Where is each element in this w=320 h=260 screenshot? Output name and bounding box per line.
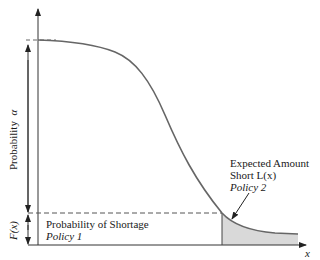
policy-2-label: Policy 2	[230, 181, 266, 193]
alpha-symbol: α	[7, 110, 19, 116]
short-lx-label: Short L(x)	[230, 169, 276, 181]
shortage-probability-label: Probability of Shortage	[46, 218, 149, 230]
policy-1-label: Policy 1	[46, 230, 82, 242]
complementary-cdf-curve	[38, 40, 298, 234]
expected-shortage-area	[222, 213, 298, 245]
expected-shortage-pointer	[232, 193, 249, 219]
probability-label: Probability	[7, 121, 19, 170]
diagram-canvas: Probability α F(x) Probability of Shorta…	[0, 0, 320, 260]
fx-label: F(x)	[7, 221, 19, 240]
x-axis-label: x	[305, 247, 310, 259]
probability-alpha-label: Probability α	[7, 110, 19, 170]
expected-amount-label: Expected Amount	[230, 157, 309, 169]
